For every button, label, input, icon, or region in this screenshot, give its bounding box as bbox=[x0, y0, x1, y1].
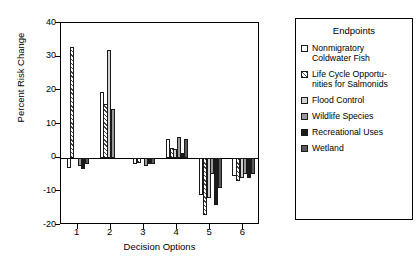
bar bbox=[111, 109, 115, 158]
legend-item: Flood Control bbox=[301, 95, 407, 105]
legend-swatch-icon bbox=[301, 45, 308, 52]
legend-item: Wetland bbox=[301, 143, 407, 153]
y-axis-title: Percent Risk Change bbox=[15, 3, 26, 153]
chart-figure: -20-10010203040 Percent Risk Change 1234… bbox=[0, 0, 418, 261]
legend-swatch-icon bbox=[301, 113, 308, 120]
legend-item: Recreational Uses bbox=[301, 127, 407, 137]
bars-container bbox=[61, 23, 258, 223]
x-tick-label: 4 bbox=[166, 226, 186, 237]
x-tick-label: 3 bbox=[133, 226, 153, 237]
legend-swatch-icon bbox=[301, 145, 308, 152]
legend-swatch-icon bbox=[301, 129, 308, 136]
bar bbox=[218, 158, 222, 188]
bar bbox=[137, 158, 141, 163]
legend-item-label: Flood Control bbox=[312, 95, 364, 105]
plot-area bbox=[60, 22, 259, 224]
bar bbox=[67, 158, 71, 168]
x-tick-label: 6 bbox=[232, 226, 252, 237]
legend-entries: Nonmigratory Coldwater FishLife Cycle Op… bbox=[301, 43, 407, 153]
legend-item-label: Life Cycle Opportu- nities for Salmonids bbox=[312, 69, 388, 89]
bar bbox=[85, 158, 89, 165]
zero-baseline bbox=[61, 158, 258, 159]
bar bbox=[70, 47, 74, 158]
legend-item-label: Wildlife Species bbox=[312, 111, 373, 121]
legend-item-label: Wetland bbox=[312, 143, 344, 153]
bar bbox=[251, 158, 255, 175]
legend-swatch-icon bbox=[301, 97, 308, 104]
bar bbox=[184, 139, 188, 158]
x-tick-label: 1 bbox=[67, 226, 87, 237]
x-tick-label: 5 bbox=[199, 226, 219, 237]
legend-swatch-icon bbox=[301, 71, 308, 78]
bar bbox=[151, 158, 155, 165]
legend-box: Endpoints Nonmigratory Coldwater FishLif… bbox=[295, 18, 413, 220]
legend-item-label: Nonmigratory Coldwater Fish bbox=[312, 43, 370, 63]
x-axis-tick-labels: 123456 bbox=[60, 226, 259, 240]
legend-item: Wildlife Species bbox=[301, 111, 407, 121]
legend-item-label: Recreational Uses bbox=[312, 127, 383, 137]
x-axis-title: Decision Options bbox=[60, 241, 259, 252]
legend-item: Life Cycle Opportu- nities for Salmonids bbox=[301, 69, 407, 89]
legend-item: Nonmigratory Coldwater Fish bbox=[301, 43, 407, 63]
legend-title: Endpoints bbox=[301, 25, 407, 36]
x-tick-label: 2 bbox=[100, 226, 120, 237]
